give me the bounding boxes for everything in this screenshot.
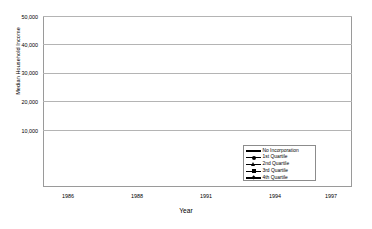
legend-item[interactable]: 1st Quartile: [246, 154, 313, 161]
legend-label: 1st Quartile: [263, 154, 288, 161]
y-axis-tick-label: 40,000: [2, 42, 38, 48]
legend-item[interactable]: 3rd Quartile: [246, 168, 313, 175]
legend-label: 3rd Quartile: [263, 168, 289, 175]
legend-label: 2nd Quartile: [263, 161, 290, 168]
legend-marker-circle-icon: [246, 155, 261, 161]
chart-legend: No Incorporation 1st Quartile 2nd Quarti…: [243, 145, 316, 181]
gridline-30000: [43, 73, 352, 74]
legend-label: 4th Quartile: [263, 175, 288, 182]
gridline-40000: [43, 44, 352, 45]
legend-marker-square-icon: [246, 168, 261, 174]
y-axis-title: Median Household Income: [15, 0, 21, 131]
x-axis-title: Year: [0, 207, 372, 214]
gridline-10000: [43, 130, 352, 131]
legend-label: No Incorporation: [263, 148, 299, 155]
x-axis-tick-label: 1997: [311, 193, 351, 199]
x-axis-tick-label: 1994: [255, 193, 295, 199]
gridline-20000: [43, 101, 352, 102]
legend-marker-diamond-icon: [246, 175, 261, 181]
legend-marker-dash-icon: [246, 148, 261, 154]
legend-item[interactable]: No Incorporation: [246, 148, 313, 155]
y-axis-tick-label: 30,000: [2, 70, 38, 76]
x-axis-tick-label: 1988: [117, 193, 157, 199]
legend-item[interactable]: 2nd Quartile: [246, 161, 313, 168]
gridline-50000: [43, 16, 352, 17]
y-axis-tick-label: 10,000: [2, 128, 38, 134]
legend-item[interactable]: 4th Quartile: [246, 175, 313, 182]
y-axis-tick-label: 20,000: [2, 99, 38, 105]
y-axis-tick-label: 50,000: [2, 14, 38, 20]
chart-container: Median Household Income 50,000 40,000 30…: [0, 0, 372, 229]
x-axis-tick-label: 1991: [186, 193, 226, 199]
x-axis-tick-label: 1986: [48, 193, 88, 199]
legend-marker-triangle-icon: [246, 161, 261, 167]
